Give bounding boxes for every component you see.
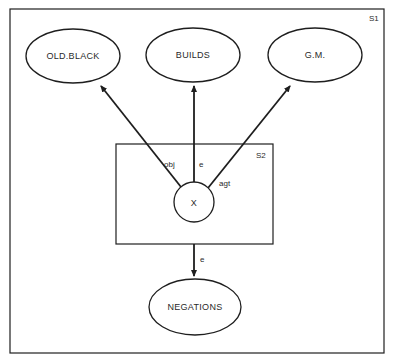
frame-label-s2: S2 bbox=[256, 151, 266, 160]
frame-label-s1: S1 bbox=[369, 14, 379, 23]
node-negations: NEGATIONS bbox=[149, 279, 241, 335]
edge-agt bbox=[208, 86, 290, 188]
node-gm: G.M. bbox=[268, 28, 362, 82]
node-label-x: X bbox=[191, 198, 197, 208]
edge-obj bbox=[101, 86, 181, 187]
semantic-network-diagram: S1 S2 obj e agt e OLD.BLACK BUILDS G.M. … bbox=[0, 0, 393, 360]
edge-label-obj: obj bbox=[164, 160, 175, 169]
edge-label-agt: agt bbox=[219, 179, 231, 188]
node-label-negations: NEGATIONS bbox=[167, 302, 222, 312]
node-label-builds: BUILDS bbox=[176, 50, 210, 60]
edge-label-e-builds: e bbox=[199, 160, 204, 169]
edge-label-e-negations: e bbox=[200, 255, 205, 264]
node-x: X bbox=[174, 182, 214, 222]
node-label-gm: G.M. bbox=[305, 50, 326, 60]
node-builds: BUILDS bbox=[146, 28, 240, 82]
node-label-old-black: OLD.BLACK bbox=[46, 51, 99, 61]
node-old-black: OLD.BLACK bbox=[26, 29, 120, 83]
